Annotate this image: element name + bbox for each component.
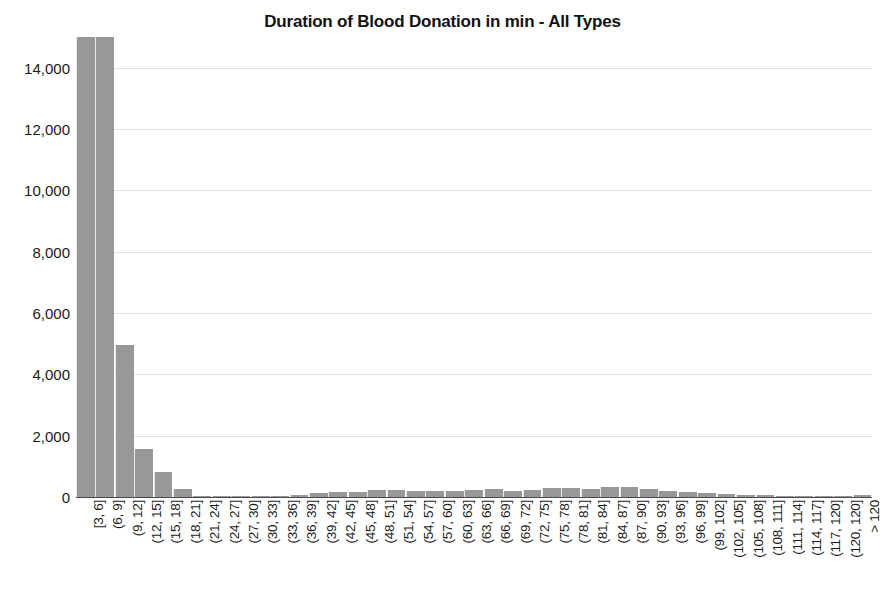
x-tick-label: (30, 33] xyxy=(265,500,280,543)
x-tick-label: [3, 6] xyxy=(91,500,106,528)
x-tick-label: (102, 105] xyxy=(731,500,746,558)
bar xyxy=(115,345,134,497)
x-tick-label: (15, 18] xyxy=(168,500,183,543)
x-tick-label: (51, 54] xyxy=(401,500,416,543)
bar xyxy=(542,488,561,497)
bar xyxy=(154,472,173,497)
y-tick-label: 6,000 xyxy=(2,305,70,322)
plot-area xyxy=(76,37,872,497)
bar xyxy=(484,489,503,497)
x-axis-tick-labels: [3, 6](6, 9](9, 12](12, 15](15, 18](18, … xyxy=(76,500,872,605)
bar xyxy=(387,490,406,497)
gridline xyxy=(76,68,872,69)
x-tick-label: (87, 90] xyxy=(634,500,649,543)
gridline xyxy=(76,190,872,191)
x-tick-label: (9, 12] xyxy=(130,500,145,536)
bar xyxy=(367,490,386,497)
x-tick-label: (21, 24] xyxy=(207,500,222,543)
x-tick-label: (114, 117] xyxy=(809,500,824,556)
x-tick-label: (75, 78] xyxy=(557,500,572,543)
gridline xyxy=(76,129,872,130)
x-tick-label: (24, 27] xyxy=(227,500,242,543)
x-tick-label: (54, 57] xyxy=(421,500,436,543)
x-tick-label: (63, 66] xyxy=(479,500,494,543)
bar xyxy=(95,37,114,497)
x-tick-label: (96, 99] xyxy=(693,500,708,543)
bar xyxy=(464,490,483,497)
x-tick-label: (81, 84] xyxy=(595,500,610,543)
x-tick-label: (45, 48] xyxy=(363,500,378,543)
bar xyxy=(639,489,658,497)
x-tick-label: (111, 114] xyxy=(790,500,805,555)
x-tick-label: (90, 93] xyxy=(654,500,669,543)
x-tick-label: (99, 102] xyxy=(712,500,727,551)
gridline xyxy=(76,374,872,375)
y-tick-label: 4,000 xyxy=(2,366,70,383)
bar xyxy=(561,488,580,497)
y-axis-tick-labels: 02,0004,0006,0008,00010,00012,00014,000 xyxy=(0,0,70,605)
x-tick-label: (105, 108] xyxy=(751,500,766,558)
bar xyxy=(134,449,153,497)
bar xyxy=(523,490,542,497)
bar xyxy=(620,487,639,497)
x-tick-label: (57, 60] xyxy=(440,500,455,543)
x-tick-label: (60, 63] xyxy=(460,500,475,543)
x-tick-label: > 120 xyxy=(867,500,882,533)
x-tick-label: (48, 51] xyxy=(382,500,397,543)
x-tick-label: (18, 21] xyxy=(188,500,203,543)
x-tick-label: (39, 42] xyxy=(324,500,339,543)
y-tick-label: 2,000 xyxy=(2,427,70,444)
gridline xyxy=(76,252,872,253)
bar xyxy=(173,489,192,497)
x-tick-label: (33, 36] xyxy=(285,500,300,543)
x-tick-label: (72, 75] xyxy=(537,500,552,543)
y-tick-label: 14,000 xyxy=(2,59,70,76)
gridline xyxy=(76,436,872,437)
y-tick-label: 0 xyxy=(2,489,70,506)
x-tick-label: (6, 9] xyxy=(110,500,125,529)
x-tick-label: (84, 87] xyxy=(615,500,630,543)
x-tick-label: (12, 15] xyxy=(149,500,164,543)
x-tick-label: (66, 69] xyxy=(498,500,513,543)
bar xyxy=(581,489,600,497)
y-tick-label: 12,000 xyxy=(2,121,70,138)
y-tick-label: 8,000 xyxy=(2,243,70,260)
x-tick-label: (93, 96] xyxy=(673,500,688,543)
x-tick-label: (36, 39] xyxy=(304,500,319,543)
gridline xyxy=(76,313,872,314)
y-tick-label: 10,000 xyxy=(2,182,70,199)
bar xyxy=(600,487,619,497)
x-tick-label: (117, 120] xyxy=(828,500,843,557)
x-tick-label: (27, 30] xyxy=(246,500,261,543)
x-tick-label: (78, 81] xyxy=(576,500,591,543)
x-axis-baseline xyxy=(76,497,872,498)
x-tick-label: (69, 72] xyxy=(518,500,533,543)
bar xyxy=(76,37,95,497)
x-tick-label: (108, 111] xyxy=(770,500,785,556)
x-tick-label: (42, 45] xyxy=(343,500,358,543)
chart-container: Duration of Blood Donation in min - All … xyxy=(0,0,885,605)
chart-title: Duration of Blood Donation in min - All … xyxy=(0,12,885,32)
x-tick-label: (120, 120] xyxy=(848,500,863,558)
